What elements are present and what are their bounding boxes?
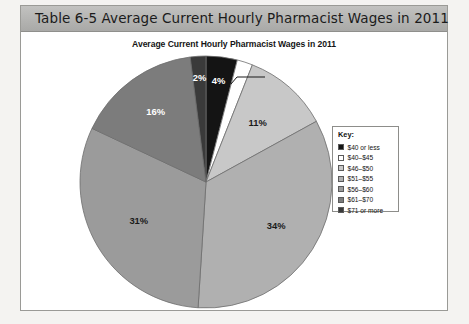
pie-slice-label: 34% <box>267 220 286 231</box>
figure-frame: Table 6-5 Average Current Hourly Pharmac… <box>20 5 448 311</box>
legend-swatch-icon <box>338 176 344 182</box>
legend-item-label: $40–$45 <box>348 154 374 161</box>
legend-title: Key: <box>338 131 394 139</box>
table-header-label: Table 6-5 Average Current Hourly Pharmac… <box>35 10 449 26</box>
legend-items: $40 or less$40–$45$46–$50$51–$55$56–$60$… <box>338 142 394 215</box>
pie-slice-label: 2% <box>193 72 207 83</box>
pie-slice-label: 16% <box>146 106 165 117</box>
legend-swatch-icon <box>338 197 344 203</box>
legend-item: $61–$70 <box>338 195 394 205</box>
legend-item: $56–$60 <box>338 184 394 194</box>
legend-swatch-icon <box>338 165 344 171</box>
pie-slice-label: 31% <box>129 215 148 226</box>
legend-item-label: $71 or more <box>348 207 384 214</box>
legend-item-label: $46–$50 <box>348 165 374 172</box>
legend-item: $71 or more <box>338 205 394 215</box>
chart-area: Average Current Hourly Pharmacist Wages … <box>21 32 447 310</box>
legend-swatch-icon <box>338 207 344 213</box>
legend-item: $40 or less <box>338 142 394 152</box>
legend: Key: $40 or less$40–$45$46–$50$51–$55$56… <box>332 126 399 212</box>
table-header-bar: Table 6-5 Average Current Hourly Pharmac… <box>21 6 447 32</box>
legend-item-label: $51–$55 <box>348 175 374 182</box>
legend-swatch-icon <box>338 186 344 192</box>
pie-slice-label: 11% <box>249 117 268 128</box>
legend-item: $46–$50 <box>338 163 394 173</box>
legend-item-label: $61–$70 <box>348 196 374 203</box>
legend-swatch-icon <box>338 155 344 161</box>
legend-item-label: $40 or less <box>348 144 380 151</box>
pie-slice-group <box>80 56 332 308</box>
legend-item: $51–$55 <box>338 174 394 184</box>
legend-swatch-icon <box>338 144 344 150</box>
pie-slice-label: 4% <box>212 75 226 86</box>
legend-item: $40–$45 <box>338 153 394 163</box>
legend-item-label: $56–$60 <box>348 186 374 193</box>
